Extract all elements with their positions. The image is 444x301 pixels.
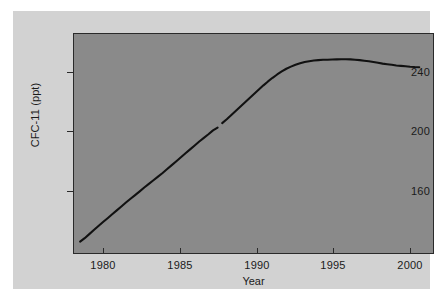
series-line-cfc11 — [80, 128, 217, 242]
y-tick-mark-240 — [67, 72, 73, 73]
y-tick-mark-200 — [67, 131, 73, 132]
x-tick-label-1990: 1990 — [227, 259, 287, 271]
chart-screenshot: 240 200 160 CFC-11 (ppt) 1980 1985 1990 … — [0, 0, 444, 301]
y-tick-label-160: 160 — [382, 185, 430, 197]
x-tick-label-2000: 2000 — [380, 259, 440, 271]
x-tick-mark-2000 — [410, 248, 411, 254]
x-tick-label-1995: 1995 — [303, 259, 363, 271]
y-axis-title: CFC-11 (ppt) — [29, 65, 41, 165]
x-tick-mark-1990 — [257, 248, 258, 254]
x-tick-mark-1985 — [180, 248, 181, 254]
y-tick-label-200: 200 — [382, 125, 430, 137]
y-tick-label-240: 240 — [382, 66, 430, 78]
x-tick-mark-1995 — [333, 248, 334, 254]
x-tick-label-1980: 1980 — [73, 259, 133, 271]
data-line-svg — [74, 34, 433, 253]
y-tick-mark-160 — [67, 191, 73, 192]
x-tick-mark-1980 — [103, 248, 104, 254]
x-axis-title: Year — [73, 275, 434, 287]
figure-canvas: 240 200 160 CFC-11 (ppt) 1980 1985 1990 … — [13, 11, 430, 289]
plot-area — [73, 33, 434, 254]
x-tick-label-1985: 1985 — [150, 259, 210, 271]
